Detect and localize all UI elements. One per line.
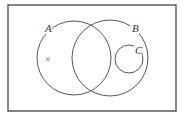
venn-diagram: A B C × — [0, 0, 184, 119]
set-b-label: B — [132, 22, 139, 34]
cross-marker: × — [45, 54, 51, 65]
set-a-label: A — [44, 22, 52, 34]
set-c-label: C — [135, 44, 143, 56]
universal-set-frame — [8, 5, 176, 111]
